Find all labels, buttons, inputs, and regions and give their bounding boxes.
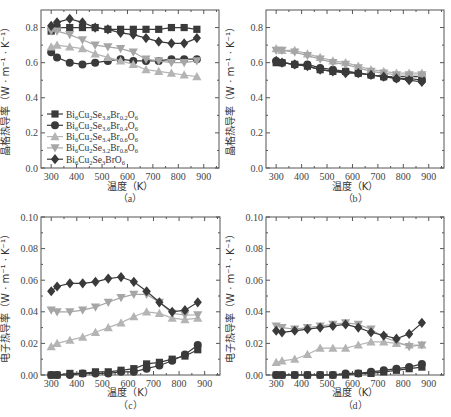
- circle-marker: [53, 371, 61, 379]
- plot-frame: [266, 10, 444, 168]
- triangle-up-marker: [91, 328, 100, 336]
- x-tick-label: 800: [396, 378, 411, 389]
- diamond-marker: [66, 14, 74, 24]
- y-tick-label: 0.08: [246, 243, 264, 254]
- x-tick-label: 900: [197, 378, 212, 389]
- panel-caption: （b）: [343, 193, 368, 204]
- diamond-marker: [392, 334, 400, 344]
- y-tick-label: 0.4: [26, 92, 39, 103]
- circle-marker: [392, 365, 400, 373]
- x-tick-label: 900: [421, 171, 436, 182]
- diamond-marker: [418, 318, 426, 328]
- y-tick-label: 0.00: [21, 370, 39, 381]
- circle-marker: [79, 369, 87, 377]
- triangle-down-marker: [104, 299, 113, 307]
- circle-marker: [66, 371, 74, 379]
- triangle-down-marker: [78, 36, 87, 44]
- y-tick-label: 0.2: [251, 127, 264, 138]
- x-tick-label: 800: [396, 171, 411, 182]
- triangle-up-marker: [104, 323, 113, 331]
- x-tick-label: 400: [69, 378, 84, 389]
- series-circle: [47, 341, 202, 379]
- circle-marker: [342, 369, 350, 377]
- triangle-up-marker: [91, 49, 100, 57]
- x-axis-title: 温度（K）: [332, 180, 379, 192]
- panel-d: 3004005006007008009000.000.020.040.060.0…: [224, 212, 444, 412]
- triangle-down-marker: [65, 31, 74, 39]
- diamond-marker: [167, 38, 175, 48]
- panel-caption: （a）: [118, 193, 142, 204]
- x-axis-title: 温度（K）: [107, 386, 154, 398]
- y-tick-label: 0.06: [246, 275, 264, 286]
- triangle-up-marker: [78, 332, 87, 340]
- legend-circle-marker: [51, 121, 59, 129]
- diamond-marker: [193, 33, 201, 43]
- circle-marker: [291, 371, 299, 379]
- triangle-down-marker: [116, 294, 125, 302]
- triangle-up-marker: [303, 350, 312, 358]
- legend-diamond-marker: [51, 154, 59, 164]
- circle-marker: [405, 363, 413, 371]
- circle-marker: [78, 60, 86, 68]
- circle-marker: [91, 59, 99, 67]
- triangle-up-marker: [142, 307, 151, 315]
- x-tick-label: 900: [421, 378, 436, 389]
- diamond-marker: [180, 38, 188, 48]
- x-tick-label: 400: [294, 378, 309, 389]
- circle-marker: [130, 368, 138, 376]
- diamond-marker: [66, 278, 74, 288]
- y-tick-label: 0.00: [246, 370, 264, 381]
- x-axis-title: 温度（K）: [332, 386, 379, 398]
- panel-caption: （c）: [118, 400, 142, 411]
- y-tick-label: 0.6: [26, 57, 39, 68]
- y-tick-label: 0.06: [21, 275, 39, 286]
- x-tick-label: 300: [44, 378, 59, 389]
- square-marker: [193, 26, 200, 33]
- y-tick-label: 0.4: [251, 92, 264, 103]
- circle-marker: [143, 365, 151, 373]
- circle-marker: [418, 360, 426, 368]
- x-tick-label: 800: [171, 171, 186, 182]
- panel-b: 3004005006007008009000.00.20.40.60.8温度（K…: [224, 10, 444, 204]
- x-tick-label: 300: [269, 171, 284, 182]
- diamond-marker: [405, 329, 413, 339]
- diamond-marker: [194, 297, 202, 307]
- triangle-up-marker: [290, 355, 299, 363]
- circle-marker: [380, 366, 388, 374]
- series-triangle-down: [47, 291, 203, 320]
- triangle-up-marker: [141, 65, 150, 73]
- square-marker: [168, 24, 175, 31]
- diamond-marker: [130, 277, 138, 287]
- legend-label: Bi6Cu2Se3BrO6: [66, 155, 126, 166]
- circle-marker: [117, 368, 125, 376]
- legend-label: Bi6Cu2Se3.4Br0.6O6: [66, 132, 139, 143]
- figure: 3004005006007008009000.00.20.40.60.8温度（K…: [0, 0, 451, 417]
- legend-label: Bi6Cu2Se3.6Br0.4O6: [66, 121, 139, 132]
- legend-label: Bi6Cu2Se3.2Br0.8O6: [66, 143, 139, 154]
- plot-frame: [41, 217, 220, 375]
- x-tick-label: 300: [44, 171, 59, 182]
- y-tick-label: 0.02: [21, 338, 39, 349]
- y-axis-title: 电子热导率（W · m⁻¹ · K⁻¹）: [0, 229, 11, 363]
- panel-c: 3004005006007008009000.000.020.040.060.0…: [0, 212, 220, 412]
- circle-marker: [303, 371, 311, 379]
- circle-marker: [367, 368, 375, 376]
- square-marker: [155, 26, 162, 33]
- y-tick-label: 0.0: [251, 163, 264, 174]
- y-tick-label: 0.2: [26, 127, 39, 138]
- panel-caption: （d）: [343, 400, 368, 411]
- y-tick-label: 0.10: [21, 212, 39, 223]
- y-axis-title: 晶格热导率（W · m⁻¹ · K⁻¹）: [0, 22, 11, 156]
- x-tick-label: 400: [294, 171, 309, 182]
- diamond-marker: [104, 274, 112, 284]
- plot-frame: [266, 217, 444, 375]
- y-tick-label: 0.8: [26, 22, 39, 33]
- circle-marker: [91, 369, 99, 377]
- x-tick-label: 800: [172, 378, 187, 389]
- series-diamond: [272, 318, 426, 344]
- circle-marker: [354, 369, 362, 377]
- diamond-marker: [278, 327, 286, 337]
- triangle-down-marker: [129, 49, 138, 57]
- square-marker: [66, 24, 73, 31]
- panel-a: 3004005006007008009000.00.20.40.60.8温度（K…: [0, 10, 219, 204]
